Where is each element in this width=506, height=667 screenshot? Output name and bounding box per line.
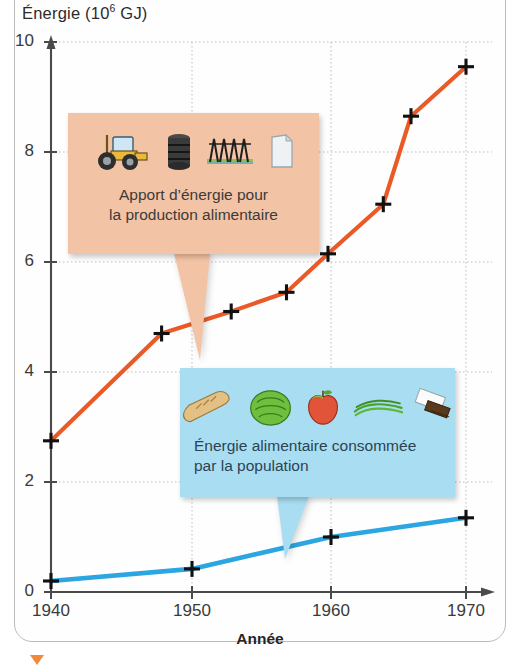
callout-orange-tail <box>174 253 210 360</box>
baguette-icon <box>180 387 236 427</box>
lettuce-icon <box>248 386 293 428</box>
chocolate-bar-icon <box>415 387 455 427</box>
y-tick-label-4: 4 <box>4 361 34 381</box>
y-tick-label-2: 2 <box>4 471 34 491</box>
x-tick-label-1940: 1940 <box>16 601 86 621</box>
apple-icon <box>305 386 341 428</box>
green-beans-icon <box>353 394 403 420</box>
callout-blue-line2: par la population <box>180 456 455 476</box>
x-axis-title: Année <box>190 630 330 648</box>
y-tick-label-8: 8 <box>4 141 34 161</box>
series-line-blue <box>51 518 466 581</box>
y-tick-label-6: 6 <box>4 251 34 271</box>
tractor-icon <box>91 131 153 173</box>
x-tick-label-1950: 1950 <box>157 601 227 621</box>
callout-blue-tail <box>277 496 309 559</box>
chart-plot <box>0 0 506 667</box>
callout-orange-line1: Apport d’énergie pour <box>68 185 319 205</box>
callout-orange-line2: la production alimentaire <box>68 205 319 225</box>
callout-blue-line1: Énergie alimentaire consommée <box>180 436 455 456</box>
harrow-plow-icon <box>205 132 255 172</box>
y-axis-title: Énergie (106 GJ) <box>22 2 148 23</box>
figure-container: Énergie (106 GJ) 10 8 6 4 2 0 1940 1950 … <box>0 0 506 667</box>
x-tick-label-1960: 1960 <box>296 601 366 621</box>
callout-blue-text: Énergie alimentaire consommée par la pop… <box>180 436 455 475</box>
callout-energy-input: Apport d’énergie pour la production alim… <box>68 113 319 254</box>
callout-energy-consumed: Énergie alimentaire consommée par la pop… <box>180 368 455 497</box>
y-tick-label-10: 10 <box>4 31 34 51</box>
callout-orange-icons <box>68 119 319 185</box>
callout-blue-icons <box>180 374 455 440</box>
y-tick-label-0: 0 <box>4 581 34 601</box>
oil-barrel-icon <box>165 132 193 172</box>
orange-triangle-icon <box>30 655 44 665</box>
callout-orange-text: Apport d’énergie pour la production alim… <box>68 185 319 224</box>
x-tick-label-1970: 1970 <box>431 601 501 621</box>
fertilizer-bag-icon <box>267 131 297 173</box>
